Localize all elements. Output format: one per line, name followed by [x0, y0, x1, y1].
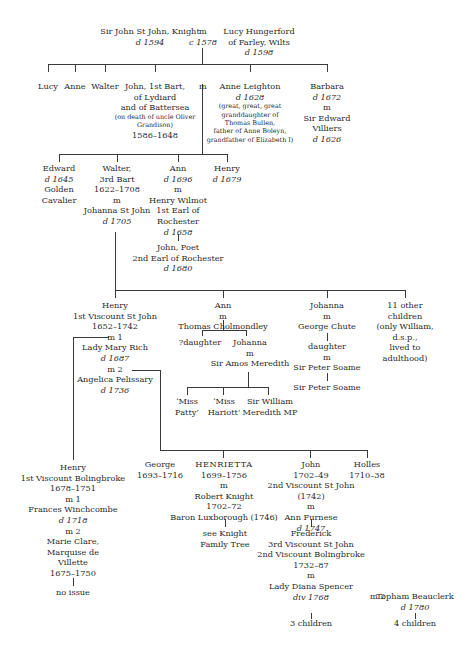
label-4-children: 4 children: [394, 618, 436, 629]
m-label: m: [298, 311, 356, 322]
text: 11 other: [376, 300, 433, 311]
m-label: m: [84, 195, 151, 206]
name: Ann: [149, 163, 207, 174]
name: Lucy: [38, 81, 58, 92]
m2-label: m 2: [73, 364, 157, 375]
dates: d 1679: [213, 174, 242, 185]
text: 4 children: [394, 618, 436, 629]
node-john-2nd-viscount: John 1702–49 2nd Viscount St John (1742)…: [267, 459, 354, 533]
text: adulthood): [376, 353, 433, 364]
dates: d 1645: [42, 174, 77, 185]
divorce-date: div 1768: [257, 592, 364, 603]
node-topham-beauclerk: Topham Beauclerk d 1780: [376, 591, 453, 612]
node-lucy-hungerford: Lucy Hungerford of Farley, Wilts d 1598: [223, 26, 294, 58]
line: [48, 64, 49, 72]
spouse-2: Marquise de: [21, 547, 125, 558]
spouse: Villiers: [303, 123, 350, 134]
line: [59, 154, 227, 155]
note: father of Anne Boleyn,: [207, 127, 294, 135]
line: [115, 232, 116, 290]
spouse-2-dates: d 1736: [73, 385, 157, 396]
marriage-gen1: m c 1578: [189, 26, 217, 47]
text: children: [376, 311, 433, 322]
see-knight-family-tree: see Knight Family Tree: [200, 528, 249, 549]
title: 1st Viscount Bolingbroke: [21, 473, 125, 484]
title-date: (1742): [267, 491, 354, 502]
spouse: Ann Furnese: [267, 512, 354, 523]
spouse: Lady Diana Spencer: [257, 581, 364, 592]
spouse: Henry Wilmot: [149, 195, 207, 206]
title: 3rd Viscount St John: [257, 539, 364, 550]
name: Lucy Hungerford: [223, 26, 294, 37]
node-sir-peter-soame: Sir Peter Soame: [293, 382, 360, 393]
node-sir-william-meredith: Sir William Meredith MP: [243, 396, 298, 417]
note: Grandison): [115, 121, 196, 129]
node-daughter-soame: daughter m Sir Peter Soame: [293, 341, 360, 373]
spouse-dates: 1702–72: [170, 501, 278, 512]
note: Cavalier: [42, 195, 77, 206]
node-anne: Anne: [64, 81, 85, 92]
line: [73, 578, 74, 586]
title: 2nd Viscount Bolingbroke: [257, 549, 364, 560]
spouse: Sir Peter Soame: [293, 362, 360, 373]
name: daughter: [293, 341, 360, 352]
name: Topham Beauclerk: [376, 591, 453, 602]
name: Patty’: [175, 407, 199, 418]
dates: d 1780: [376, 602, 453, 613]
name: Sir William: [243, 396, 298, 407]
spouse-2-dates: 1675–1750: [21, 568, 125, 579]
line: [227, 154, 228, 162]
line: [105, 64, 106, 72]
line: [223, 387, 224, 395]
node-walter-3rd-bart: Walter, 3rd Bart 1622–1708 m Johanna St …: [84, 163, 151, 227]
line: [327, 64, 328, 72]
spouse: Sir Edward: [303, 113, 350, 124]
name: Holles: [349, 459, 384, 470]
name: Henry: [213, 163, 242, 174]
node-11-other-children: 11 other children (only William, d.s.p.,…: [376, 300, 433, 364]
name: ‘Miss: [208, 396, 241, 407]
name: Walter,: [84, 163, 151, 174]
text: see Knight: [200, 528, 249, 539]
date: c 1578: [189, 37, 217, 48]
name: Hariott’: [208, 407, 241, 418]
note: Golden: [42, 184, 77, 195]
line: [117, 154, 118, 162]
node-henry-1679: Henry d 1679: [213, 163, 242, 184]
m-label: m: [189, 26, 217, 37]
m-label: m: [303, 102, 350, 113]
dates: d 1594: [100, 37, 199, 48]
node-ann-cholmondley: Ann m Thomas Cholmondley: [178, 300, 268, 332]
note: (great, great, great: [207, 102, 294, 110]
dates: d 1628: [207, 92, 294, 103]
dates: 1622–1708: [84, 184, 151, 195]
text: 3 children: [290, 618, 332, 629]
line: [48, 64, 328, 65]
line: [160, 370, 161, 450]
name: Henry: [73, 300, 157, 311]
line: [327, 333, 328, 341]
spouse: Rochester: [149, 216, 207, 227]
dates: 1678–1751: [21, 483, 125, 494]
spouse-1-dates: d 1687: [73, 353, 157, 364]
spouse: 1st Earl of: [149, 205, 207, 216]
dates: d 1680: [133, 263, 224, 274]
line: [250, 64, 251, 72]
node-miss-hariott: ‘Miss Hariott’: [208, 396, 241, 417]
label-3-children: 3 children: [290, 618, 332, 629]
node-edward: Edward d 1645 Golden Cavalier: [42, 163, 77, 205]
node-ann-wilmot: Ann d 1696 m Henry Wilmot 1st Earl of Ro…: [149, 163, 207, 237]
name: Barbara: [303, 81, 350, 92]
no-issue-label: no issue: [56, 587, 90, 598]
title: 1st Viscount St John: [73, 311, 157, 322]
note: Thomas Bullen,: [207, 119, 294, 127]
text: no issue: [56, 587, 90, 598]
dates: 1652–1742: [73, 321, 157, 332]
node-johanna-meredith: Johanna m Sir Amos Meredith: [211, 337, 290, 369]
line: [187, 387, 268, 388]
name: Frederick: [257, 528, 364, 539]
line: [223, 290, 224, 298]
line: [160, 450, 367, 451]
spouse: Johanna St John: [84, 205, 151, 216]
spouse: George Chute: [298, 321, 356, 332]
